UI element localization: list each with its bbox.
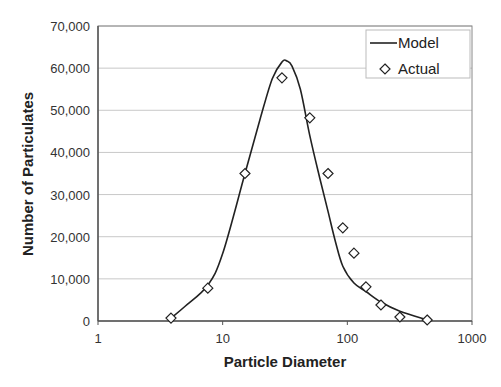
legend: Model Actual xyxy=(366,30,470,78)
y-tick-label: 60,000 xyxy=(50,61,90,76)
particle-distribution-chart: 010,00020,00030,00040,00050,00060,00070,… xyxy=(0,0,501,387)
actual-data-point xyxy=(422,315,432,325)
x-axis-title: Particle Diameter xyxy=(224,353,347,370)
y-tick-label: 70,000 xyxy=(50,19,90,34)
y-axis-ticks: 010,00020,00030,00040,00050,00060,00070,… xyxy=(50,19,90,329)
y-tick-label: 50,000 xyxy=(50,103,90,118)
actual-data-point xyxy=(323,169,333,179)
y-tick-label: 0 xyxy=(83,314,90,329)
actual-data-point xyxy=(376,300,386,310)
actual-data-point xyxy=(338,223,348,233)
x-tick-label: 1000 xyxy=(458,331,487,346)
actual-data-point xyxy=(361,282,371,292)
y-tick-label: 40,000 xyxy=(50,145,90,160)
y-tick-label: 30,000 xyxy=(50,188,90,203)
x-tick-label: 10 xyxy=(215,331,229,346)
y-axis-title: Number of Particulates xyxy=(19,92,36,256)
actual-data-point xyxy=(349,248,359,258)
x-tick-label: 1 xyxy=(94,331,101,346)
actual-data-point xyxy=(277,73,287,83)
model-curve xyxy=(171,60,427,320)
legend-actual-label: Actual xyxy=(398,60,440,77)
y-tick-label: 10,000 xyxy=(50,272,90,287)
x-tick-label: 100 xyxy=(336,331,358,346)
legend-model-label: Model xyxy=(398,34,439,51)
actual-data-point xyxy=(240,169,250,179)
actual-data-point xyxy=(203,283,213,293)
y-tick-label: 20,000 xyxy=(50,230,90,245)
